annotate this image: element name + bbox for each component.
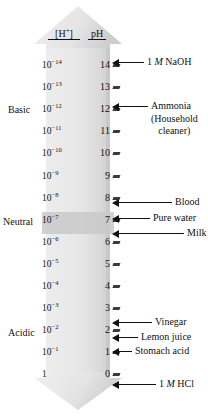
callout-label-line: 1 M NaOH xyxy=(147,56,191,68)
hydrogen-ion-concentration-value: 10−14 xyxy=(42,58,86,72)
category-label-acidic: Acidic xyxy=(8,327,35,339)
callout-leader-line xyxy=(118,218,150,219)
ph-tick-mark xyxy=(113,263,121,266)
ph-value: 14 xyxy=(88,58,110,72)
hydrogen-ion-concentration-value: 10−11 xyxy=(42,124,86,138)
ph-scale-row: 10−88 xyxy=(36,191,118,205)
callout-label-line: Lemon juice xyxy=(141,331,191,343)
callout-label: Lemon juice xyxy=(141,331,191,343)
callout-label: Blood xyxy=(175,196,199,208)
ph-scale-row: 10−33 xyxy=(36,301,118,315)
callout-leader-line xyxy=(118,106,148,107)
ph-value: 0 xyxy=(88,367,110,381)
ph-tick-mark xyxy=(113,329,121,332)
callout-label: Ammonia(Householdcleaner) xyxy=(151,100,198,138)
category-label-neutral: Neutral xyxy=(3,216,33,228)
hydrogen-ion-concentration-value: 10−4 xyxy=(42,279,86,293)
hydrogen-ion-concentration-value: 10−8 xyxy=(42,191,86,205)
hydrogen-ion-concentration-value: 10−10 xyxy=(42,146,86,160)
ph-value: 4 xyxy=(88,279,110,293)
callout-label-line: Ammonia xyxy=(151,100,198,113)
callout-leader-line xyxy=(118,62,144,63)
callout-label: Pure water xyxy=(153,212,196,224)
ph-value: 12 xyxy=(88,102,110,116)
hydrogen-ion-concentration-value: 10−13 xyxy=(42,80,86,94)
callout-leader-line xyxy=(118,202,172,203)
ph-value: 1 xyxy=(88,345,110,359)
ph-tick-mark xyxy=(113,86,121,89)
callout-label: 1 M HCl xyxy=(159,378,194,390)
ph-scale-row: 10−66 xyxy=(36,235,118,249)
column-header-concentration: [H+] xyxy=(48,28,80,40)
ph-scale-row: 10−99 xyxy=(36,169,118,183)
callout-label: Milk xyxy=(187,227,206,239)
callout-label-line: cleaner) xyxy=(151,125,198,138)
callout-leader-line xyxy=(118,233,184,234)
callout-leader-line xyxy=(118,322,152,323)
ph-value: 10 xyxy=(88,146,110,160)
callout-label-line: Pure water xyxy=(153,212,196,224)
callout-label-line: Stomach acid xyxy=(135,345,189,357)
ph-value: 13 xyxy=(88,80,110,94)
ph-scale-row: 10−1212 xyxy=(36,102,118,116)
ph-scale-row: 10−1313 xyxy=(36,80,118,94)
callout-leader-line xyxy=(118,351,132,352)
hydrogen-ion-concentration-value: 10−7 xyxy=(42,213,86,227)
ph-value: 2 xyxy=(88,323,110,337)
callout-label-line: Vinegar xyxy=(155,316,187,328)
callout-label: Stomach acid xyxy=(135,345,189,357)
ph-tick-mark xyxy=(113,152,121,155)
ph-value: 6 xyxy=(88,235,110,249)
hydrogen-ion-concentration-value: 10−9 xyxy=(42,169,86,183)
callout-label-line: Blood xyxy=(175,196,199,208)
ph-value: 7 xyxy=(88,213,110,227)
ph-scale-row: 10−1010 xyxy=(36,146,118,160)
ph-tick-mark xyxy=(113,285,121,288)
hydrogen-ion-concentration-value: 10−2 xyxy=(42,323,86,337)
ph-scale-row: 10−77 xyxy=(36,213,118,227)
hydrogen-ion-concentration-value: 10−5 xyxy=(42,257,86,271)
hydrogen-ion-concentration-value: 10−6 xyxy=(42,235,86,249)
ph-tick-mark xyxy=(113,307,121,310)
callout-label-line: (Household xyxy=(151,113,198,126)
hydrogen-ion-concentration-value: 10−3 xyxy=(42,301,86,315)
callout-label: Vinegar xyxy=(155,316,187,328)
hydrogen-ion-concentration-value: 10−12 xyxy=(42,102,86,116)
ph-scale-row: 10−1414 xyxy=(36,58,118,72)
ph-tick-mark xyxy=(113,373,121,376)
callout-label: 1 M NaOH xyxy=(147,56,191,68)
ph-tick-mark xyxy=(113,130,121,133)
ph-scale-row: 10−22 xyxy=(36,323,118,337)
ph-value: 9 xyxy=(88,169,110,183)
ph-scale-row: 10−11 xyxy=(36,345,118,359)
ph-tick-mark xyxy=(113,241,121,244)
callout-leader-line xyxy=(118,337,138,338)
hydrogen-ion-concentration-value: 1 xyxy=(42,367,86,381)
ph-value: 8 xyxy=(88,191,110,205)
ph-scale-row: 10−55 xyxy=(36,257,118,271)
callout-leader-line xyxy=(118,384,156,385)
ph-value: 5 xyxy=(88,257,110,271)
column-header-ph: pH xyxy=(88,28,106,40)
ph-scale-row: 10 xyxy=(36,367,118,381)
ph-scale-row: 10−1111 xyxy=(36,124,118,138)
ph-value: 3 xyxy=(88,301,110,315)
callout-label-line: Milk xyxy=(187,227,206,239)
ph-tick-mark xyxy=(113,175,121,178)
ph-value: 11 xyxy=(88,124,110,138)
hydrogen-ion-concentration-value: 10−1 xyxy=(42,345,86,359)
ph-scale-row: 10−44 xyxy=(36,279,118,293)
category-label-basic: Basic xyxy=(8,104,30,116)
callout-label-line: 1 M HCl xyxy=(159,378,194,390)
